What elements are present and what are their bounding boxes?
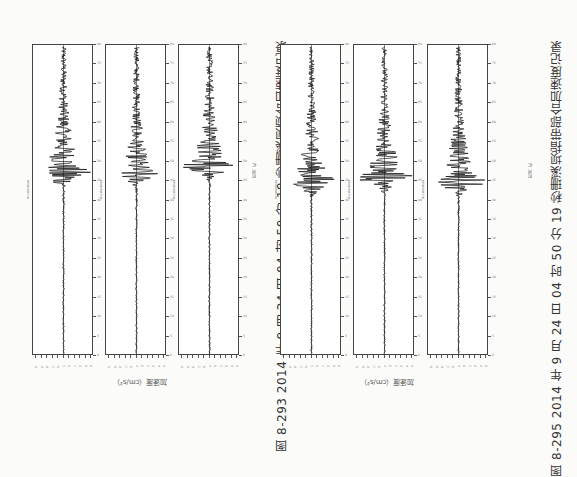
- time-tick-label: 35: [97, 217, 101, 221]
- time-tick: [488, 238, 491, 239]
- time-tick: [341, 258, 344, 259]
- time-tick: [93, 63, 96, 64]
- amplitude-tick-label: 2: [146, 365, 150, 367]
- amplitude-axis: -5-4-3-2-1012345: [178, 355, 239, 373]
- amplitude-tick-label: -1: [202, 365, 206, 368]
- time-tick-label: 65: [418, 100, 422, 104]
- time-tick-label: 15: [243, 295, 247, 299]
- time-tick-label: 75: [345, 61, 349, 65]
- time-tick: [414, 277, 417, 278]
- amplitude-tick: [378, 355, 379, 358]
- amplitude-tick-label: 2: [394, 365, 398, 367]
- amplitude-tick-label: 1: [315, 365, 319, 367]
- time-tick: [93, 102, 96, 103]
- amplitude-tick-label: 1: [140, 365, 144, 367]
- time-tick-label: 55: [170, 139, 174, 143]
- waveform-plot: [354, 45, 415, 356]
- amplitude-tick-label: 2: [321, 365, 325, 367]
- time-tick: [414, 336, 417, 337]
- amplitude-tick: [283, 355, 284, 358]
- amplitude-tick: [300, 355, 301, 358]
- time-tick: [239, 316, 242, 317]
- amplitude-tick-label: 5: [484, 365, 488, 367]
- time-tick: [414, 122, 417, 123]
- amplitude-tick-label: 3: [224, 365, 228, 367]
- x-axis-label-fig2: 时间（s）: [528, 160, 534, 178]
- amplitude-tick-label: -2: [372, 365, 376, 368]
- time-tick-label: 25: [243, 256, 247, 260]
- time-tick-label: 35: [170, 217, 174, 221]
- time-tick-label: 55: [243, 139, 247, 143]
- time-tick: [166, 316, 169, 317]
- amplitude-tick-label: -1: [129, 365, 133, 368]
- panel-header-label: Acceleration: [26, 180, 30, 199]
- amplitude-tick-label: -2: [124, 365, 128, 368]
- amplitude-tick-label: -5: [34, 365, 38, 368]
- waveform-plot: [106, 45, 167, 356]
- time-tick-label: 55: [345, 139, 349, 143]
- time-tick: [239, 336, 242, 337]
- time-tick: [414, 316, 417, 317]
- time-tick-label: 10: [170, 314, 174, 318]
- time-tick-label: 0: [243, 353, 245, 357]
- amplitude-tick: [485, 355, 486, 358]
- amplitude-tick: [333, 355, 334, 358]
- amplitude-tick-label: 5: [235, 365, 239, 367]
- time-tick: [341, 336, 344, 337]
- amplitude-tick-label: -3: [118, 365, 122, 368]
- time-tick: [239, 122, 242, 123]
- amplitude-tick: [362, 355, 363, 358]
- time-tick: [341, 355, 344, 356]
- panel-header-label: Acceleration: [347, 180, 351, 199]
- time-tick: [341, 219, 344, 220]
- time-tick: [166, 83, 169, 84]
- amplitude-tick: [356, 355, 357, 358]
- time-tick: [93, 180, 96, 181]
- time-tick: [414, 238, 417, 239]
- amplitude-tick-label: 0: [383, 365, 387, 367]
- time-tick: [341, 180, 344, 181]
- time-tick: [488, 180, 491, 181]
- time-tick-label: 10: [492, 314, 496, 318]
- time-tick: [488, 355, 491, 356]
- amplitude-tick-label: 5: [410, 365, 414, 367]
- time-axis: 05101520253035404550556065707580: [488, 44, 496, 355]
- amplitude-tick-label: 0: [457, 365, 461, 367]
- amplitude-tick: [400, 355, 401, 358]
- time-tick: [93, 200, 96, 201]
- waveform-plot: [428, 45, 489, 356]
- amplitude-tick: [447, 355, 448, 358]
- amplitude-tick: [85, 355, 86, 358]
- amplitude-tick-label: 3: [78, 365, 82, 367]
- amplitude-tick-label: -1: [377, 365, 381, 368]
- time-tick-label: 65: [97, 100, 101, 104]
- time-axis: 05101520253035404550556065707580: [239, 44, 247, 355]
- amplitude-tick: [192, 355, 193, 358]
- time-tick: [239, 258, 242, 259]
- time-tick: [239, 141, 242, 142]
- time-tick-label: 45: [492, 178, 496, 182]
- time-tick: [488, 200, 491, 201]
- time-tick: [166, 277, 169, 278]
- time-tick-label: 15: [492, 295, 496, 299]
- amplitude-tick: [327, 355, 328, 358]
- panel-header-label: Acceleration: [421, 180, 425, 199]
- time-tick-label: 60: [418, 120, 422, 124]
- time-tick-label: 70: [492, 81, 496, 85]
- time-tick: [239, 277, 242, 278]
- time-tick-label: 75: [418, 61, 422, 65]
- time-tick-label: 25: [345, 256, 349, 260]
- time-tick: [166, 355, 169, 356]
- amplitude-tick: [411, 355, 412, 358]
- amplitude-tick: [90, 355, 91, 358]
- time-tick-label: 75: [243, 61, 247, 65]
- amplitude-tick: [436, 355, 437, 358]
- amplitude-tick: [389, 355, 390, 358]
- amplitude-tick: [147, 355, 148, 358]
- time-tick: [414, 180, 417, 181]
- time-tick-label: 15: [345, 295, 349, 299]
- amplitude-tick-label: 1: [67, 365, 71, 367]
- time-tick: [341, 63, 344, 64]
- amplitude-axis: -5-4-3-2-1012345: [353, 355, 414, 373]
- time-tick-label: 70: [170, 81, 174, 85]
